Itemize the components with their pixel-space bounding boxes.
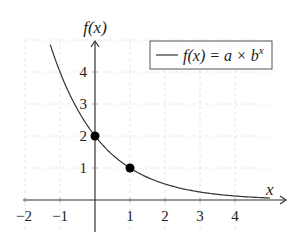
x-tick-labels: −2 −1 1 2 3 4 bbox=[16, 208, 239, 224]
x-tick-label: −2 bbox=[16, 208, 32, 224]
legend-label: f(x) = a × bx bbox=[183, 44, 264, 65]
x-tick-label: 1 bbox=[126, 208, 134, 224]
legend: f(x) = a × bx bbox=[150, 41, 272, 69]
chart-canvas: −2 −1 1 2 3 4 1 2 3 4 f(x) x f(x) = a × … bbox=[0, 0, 288, 241]
x-tick-label: 2 bbox=[161, 208, 169, 224]
x-tick-label: 4 bbox=[231, 208, 239, 224]
data-point bbox=[91, 132, 100, 141]
exponential-chart: −2 −1 1 2 3 4 1 2 3 4 f(x) x f(x) = a × … bbox=[0, 0, 288, 241]
data-point bbox=[126, 164, 135, 173]
y-tick-label: 4 bbox=[80, 64, 88, 80]
y-tick-label: 1 bbox=[80, 160, 88, 176]
y-tick-label: 2 bbox=[80, 128, 88, 144]
x-axis-label: x bbox=[265, 180, 274, 199]
x-tick-label: 3 bbox=[196, 208, 204, 224]
y-axis-label: f(x) bbox=[83, 18, 107, 37]
y-tick-label: 3 bbox=[80, 96, 88, 112]
x-tick-label: −1 bbox=[52, 208, 68, 224]
